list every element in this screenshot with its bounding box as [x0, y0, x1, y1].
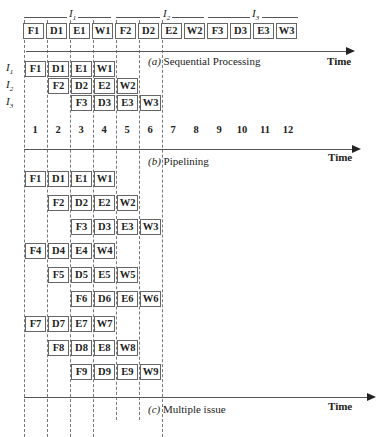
- stage-box-d3: D3: [94, 95, 115, 111]
- stage-box-e1: E1: [69, 23, 90, 39]
- time-tick-11: 11: [255, 124, 275, 135]
- multiple-issue-time-axis: [24, 397, 370, 398]
- stage-box-w6: W6: [140, 291, 161, 307]
- row-label-i2: I2: [6, 78, 13, 93]
- stage-box-w7: W7: [94, 316, 115, 332]
- stage-box-d2: D2: [71, 195, 92, 211]
- stage-box-f2: F2: [48, 195, 69, 211]
- stage-box-w3: W3: [276, 23, 297, 39]
- time-divider-1: [24, 20, 25, 437]
- stage-box-d2: D2: [138, 23, 159, 39]
- time-tick-1: 1: [25, 124, 45, 135]
- stage-box-e5: E5: [94, 267, 115, 283]
- stage-box-w2: W2: [117, 195, 138, 211]
- stage-box-w9: W9: [140, 364, 161, 380]
- sequential-time-axis: [26, 51, 348, 52]
- stage-box-d7: D7: [48, 316, 69, 332]
- stage-box-d3: D3: [230, 23, 251, 39]
- stage-box-e7: E7: [71, 316, 92, 332]
- stage-box-d1: D1: [46, 23, 67, 39]
- time-tick-10: 10: [232, 124, 252, 135]
- bracket-i2-label: I2: [163, 7, 170, 22]
- stage-box-f5: F5: [48, 267, 69, 283]
- stage-box-f2: F2: [115, 23, 136, 39]
- stage-box-e2: E2: [161, 23, 182, 39]
- stage-box-w1: W1: [94, 61, 115, 77]
- time-tick-12: 12: [278, 124, 298, 135]
- stage-box-d5: D5: [71, 267, 92, 283]
- bracket-i2-right: [172, 17, 204, 18]
- time-tick-4: 4: [94, 124, 114, 135]
- stage-box-e1: E1: [71, 171, 92, 187]
- row-label-i3: I3: [6, 95, 13, 110]
- stage-box-e1: E1: [71, 61, 92, 77]
- stage-box-w1: W1: [92, 23, 113, 39]
- stage-box-f4: F4: [25, 243, 46, 259]
- stage-box-f9: F9: [71, 364, 92, 380]
- pipelining-time-label: Time: [328, 151, 352, 163]
- sequential-caption: (a) Sequential Processing: [148, 55, 260, 67]
- stage-box-e3: E3: [117, 95, 138, 111]
- stage-box-w3: W3: [140, 219, 161, 235]
- pipelining-time-axis: [24, 149, 354, 150]
- bracket-i3-label: I3: [252, 7, 259, 22]
- time-tick-5: 5: [117, 124, 137, 135]
- time-tick-8: 8: [186, 124, 206, 135]
- stage-box-w5: W5: [117, 267, 138, 283]
- stage-box-d2: D2: [71, 78, 92, 94]
- sequential-arrow-icon: [346, 47, 355, 55]
- stage-box-e2: E2: [94, 78, 115, 94]
- multiple-issue-arrow-icon: [367, 393, 376, 401]
- stage-box-w8: W8: [117, 340, 138, 356]
- stage-box-w2: W2: [184, 23, 205, 39]
- stage-box-d6: D6: [94, 291, 115, 307]
- bracket-i3-right: [262, 17, 298, 18]
- stage-box-w1: W1: [94, 171, 115, 187]
- row-label-i1: I1: [6, 61, 13, 76]
- time-tick-6: 6: [140, 124, 160, 135]
- time-tick-2: 2: [48, 124, 68, 135]
- stage-box-e8: E8: [94, 340, 115, 356]
- stage-box-f1: F1: [25, 171, 46, 187]
- stage-box-f1: F1: [23, 23, 44, 39]
- stage-box-e9: E9: [117, 364, 138, 380]
- stage-box-d9: D9: [94, 364, 115, 380]
- multiple-issue-time-label: Time: [328, 400, 352, 412]
- stage-box-d1: D1: [48, 171, 69, 187]
- stage-box-d4: D4: [48, 243, 69, 259]
- stage-box-d8: D8: [71, 340, 92, 356]
- stage-box-f2: F2: [48, 78, 69, 94]
- stage-box-f1: F1: [25, 61, 46, 77]
- stage-box-e4: E4: [71, 243, 92, 259]
- stage-box-f8: F8: [48, 340, 69, 356]
- pipelining-arrow-icon: [352, 145, 361, 153]
- time-tick-3: 3: [71, 124, 91, 135]
- stage-box-f3: F3: [71, 219, 92, 235]
- stage-box-w4: W4: [94, 243, 115, 259]
- stage-box-w2: W2: [117, 78, 138, 94]
- bracket-i1-left: [24, 17, 67, 18]
- stage-box-e3: E3: [117, 219, 138, 235]
- stage-box-d1: D1: [48, 61, 69, 77]
- stage-box-e3: E3: [253, 23, 274, 39]
- multiple-issue-caption: (c) Multiple issue: [148, 403, 226, 415]
- bracket-i1-right: [78, 17, 111, 18]
- stage-box-f6: F6: [71, 291, 92, 307]
- stage-box-w3: W3: [140, 95, 161, 111]
- stage-box-f3: F3: [207, 23, 228, 39]
- stage-box-e6: E6: [117, 291, 138, 307]
- time-tick-9: 9: [209, 124, 229, 135]
- stage-box-e2: E2: [94, 195, 115, 211]
- bracket-i2-left: [116, 17, 160, 18]
- pipelining-caption: (b) Pipelining: [148, 155, 209, 167]
- sequential-time-label: Time: [327, 55, 351, 67]
- stage-box-f3: F3: [71, 95, 92, 111]
- stage-box-d3: D3: [94, 219, 115, 235]
- bracket-i1-label: I1: [69, 7, 76, 22]
- bracket-i3-left: [208, 17, 250, 18]
- stage-box-f7: F7: [25, 316, 46, 332]
- time-tick-7: 7: [163, 124, 183, 135]
- time-divider-7: [162, 20, 163, 437]
